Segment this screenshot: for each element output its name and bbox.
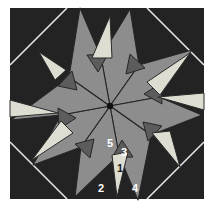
center-dot (107, 103, 113, 109)
piece-label-1: 1 (117, 162, 123, 174)
piece-label-5: 5 (107, 137, 113, 149)
quilt-block-figure: 12345 (0, 0, 215, 212)
piece-label-4: 4 (132, 182, 139, 194)
piece-label-2: 2 (98, 182, 104, 194)
quilt-block-svg: 12345 (0, 0, 215, 212)
piece-label-3: 3 (121, 146, 127, 158)
